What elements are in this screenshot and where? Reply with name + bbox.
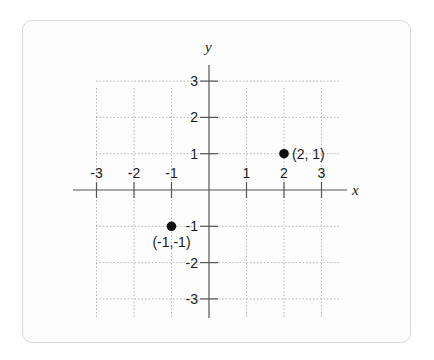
y-tick-label: 2 bbox=[190, 109, 198, 125]
data-point-marker bbox=[167, 222, 177, 232]
x-ticks: -3-2-1123 bbox=[90, 165, 325, 198]
y-tick-label: -3 bbox=[186, 291, 199, 307]
y-tick-label: -2 bbox=[186, 255, 199, 271]
y-tick-label: 1 bbox=[190, 146, 198, 162]
x-tick-label: 1 bbox=[243, 165, 251, 181]
x-tick-label: -3 bbox=[90, 165, 103, 181]
x-tick-label: 2 bbox=[280, 165, 288, 181]
x-tick-label: -2 bbox=[128, 165, 141, 181]
coordinate-plane: x y -3-2-1123 321-1-2-3 (2, 1)(-1,-1) bbox=[0, 0, 434, 360]
grid-lines bbox=[96, 81, 340, 318]
y-tick-label: 3 bbox=[190, 73, 198, 89]
y-tick-label: -1 bbox=[186, 218, 199, 234]
x-tick-label: -1 bbox=[165, 165, 178, 181]
data-points: (2, 1)(-1,-1) bbox=[152, 146, 324, 251]
data-point-label: (-1,-1) bbox=[152, 234, 190, 250]
x-axis-label: x bbox=[351, 182, 359, 198]
data-point-label: (2, 1) bbox=[292, 146, 325, 162]
x-tick-label: 3 bbox=[318, 165, 326, 181]
data-point-marker bbox=[279, 149, 289, 159]
y-axis-label: y bbox=[203, 39, 212, 55]
